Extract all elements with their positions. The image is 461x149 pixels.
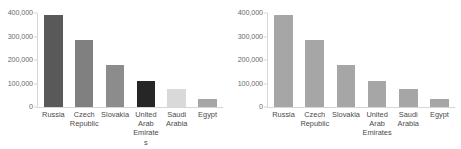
bar <box>430 99 449 107</box>
left-chart-y-tick-mark <box>34 107 37 108</box>
left-chart-y-tick-mark <box>34 36 37 37</box>
bar-chart-figure: 0100,000200,000300,000400,000 RussiaCzec… <box>0 0 461 149</box>
right-chart-y-tick-label: 0 <box>259 103 263 110</box>
category-label: Russia <box>38 110 69 119</box>
category-label: Egypt <box>424 110 455 119</box>
right-chart-y-tick-label: 200,000 <box>238 56 263 63</box>
bar <box>337 65 356 107</box>
category-label: Czech Republic <box>299 110 330 128</box>
bar <box>75 40 93 107</box>
category-label: Egypt <box>192 110 223 119</box>
left-bar-chart: 0100,000200,000300,000400,000 RussiaCzec… <box>0 0 230 149</box>
bar-slot <box>161 13 192 107</box>
right-chart-y-tick-label: 300,000 <box>238 33 263 40</box>
bar-slot <box>192 13 223 107</box>
left-chart-y-tick-mark <box>34 60 37 61</box>
category-label: Saudi Arabia <box>161 110 192 128</box>
bar-slot <box>100 13 131 107</box>
right-chart-y-tick-label: 100,000 <box>238 80 263 87</box>
bar-slot <box>393 13 424 107</box>
category-label: Czech Republic <box>69 110 100 128</box>
right-chart-plot-area <box>268 13 455 107</box>
bar-slot <box>130 13 161 107</box>
right-bar-chart: 0100,000200,000300,000400,000 RussiaCzec… <box>230 0 461 149</box>
left-chart-x-axis-line <box>37 107 223 108</box>
right-chart-y-tick-mark <box>264 83 267 84</box>
right-chart-category-labels: RussiaCzech RepublicSlovakiaUnited Arab … <box>268 110 455 149</box>
left-chart-bars <box>38 13 223 107</box>
left-chart-category-labels: RussiaCzech RepublicSlovakiaUnited Arab … <box>38 110 223 149</box>
bar <box>137 81 155 107</box>
left-chart-plot-area <box>38 13 223 107</box>
bar <box>274 15 293 107</box>
left-chart-y-tick-label: 200,000 <box>8 56 33 63</box>
left-chart-y-tick-mark <box>34 13 37 14</box>
right-chart-y-tick-label: 400,000 <box>238 9 263 16</box>
category-label: Slovakia <box>100 110 131 119</box>
bar <box>106 65 124 107</box>
bar <box>368 81 387 107</box>
bar <box>44 15 62 107</box>
bar <box>198 99 216 107</box>
category-label: Russia <box>268 110 299 119</box>
right-chart-x-axis-line <box>267 107 455 108</box>
bar <box>167 89 185 107</box>
right-chart-y-tick-mark <box>264 36 267 37</box>
right-chart-y-axis: 0100,000200,000300,000400,000 <box>230 0 266 149</box>
category-label: Slovakia <box>330 110 361 119</box>
bar-slot <box>38 13 69 107</box>
bar-slot <box>330 13 361 107</box>
bar-slot <box>362 13 393 107</box>
bar-slot <box>69 13 100 107</box>
bar <box>305 40 324 107</box>
left-chart-y-tick-mark <box>34 83 37 84</box>
bar-slot <box>299 13 330 107</box>
right-chart-y-tick-mark <box>264 60 267 61</box>
right-chart-y-tick-mark <box>264 107 267 108</box>
category-label: United Arab Emirates <box>362 110 393 138</box>
left-chart-y-tick-label: 400,000 <box>8 9 33 16</box>
bar <box>399 89 418 107</box>
left-chart-y-tick-label: 0 <box>29 103 33 110</box>
category-label: Saudi Arabia <box>393 110 424 128</box>
bar-slot <box>268 13 299 107</box>
left-chart-y-axis: 0100,000200,000300,000400,000 <box>0 0 36 149</box>
right-chart-bars <box>268 13 455 107</box>
left-chart-y-tick-label: 100,000 <box>8 80 33 87</box>
left-chart-y-tick-label: 300,000 <box>8 33 33 40</box>
bar-slot <box>424 13 455 107</box>
category-label: United Arab Emirates <box>130 110 161 147</box>
right-chart-y-tick-mark <box>264 13 267 14</box>
